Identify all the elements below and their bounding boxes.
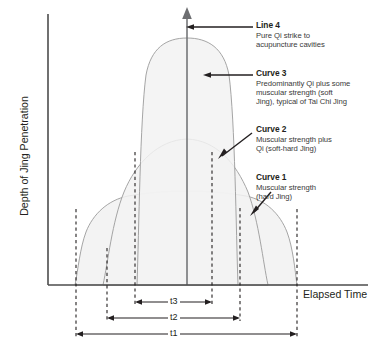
truncated-top-text (48, 0, 268, 4)
x-axis-title: Elapsed Time (303, 288, 367, 300)
annotation-line-4-desc-0: Pure Qi strike to (256, 31, 325, 40)
line-4-leader (186, 24, 253, 29)
annotation-curve-2-title: Curve 2 (256, 124, 332, 135)
annotation-curve-3-title: Curve 3 (256, 68, 350, 79)
annotation-curve-1-desc-0: Muscular strength (256, 183, 316, 192)
annotation-curve-3-desc-1: muscular strength (soft (256, 88, 350, 97)
y-axis-title: Depth of Jing Penetration (18, 76, 30, 236)
t1-measure-arrow (76, 331, 297, 336)
annotation-line-4-desc-1: acupuncture cavities (256, 40, 325, 49)
annotation-curve-1: Curve 1 Muscular strength (hard Jing) (256, 172, 316, 201)
annotation-curve-3-desc-0: Predominantly Qi plus some (256, 79, 350, 88)
t3-label: t3 (168, 296, 180, 306)
annotation-curve-3: Curve 3 Predominantly Qi plus some muscu… (256, 68, 350, 106)
annotation-curve-1-title: Curve 1 (256, 172, 316, 183)
annotation-curve-1-desc-1: (hard Jing) (256, 192, 316, 201)
t1-label: t1 (168, 328, 180, 338)
annotation-curve-2-desc: Muscular strength plus Qi (soft-hard Jin… (256, 135, 332, 153)
annotation-curve-2-desc-1: Qi (soft-hard Jing) (256, 144, 332, 153)
annotation-line-4: Line 4 Pure Qi strike to acupuncture cav… (256, 20, 325, 49)
annotation-curve-3-desc: Predominantly Qi plus some muscular stre… (256, 79, 350, 107)
annotation-curve-2-desc-0: Muscular strength plus (256, 135, 332, 144)
annotation-line-4-desc: Pure Qi strike to acupuncture cavities (256, 31, 325, 49)
annotation-curve-2: Curve 2 Muscular strength plus Qi (soft-… (256, 124, 332, 153)
annotation-curve-3-desc-2: Jing), typical of Tai Chi Jing (256, 97, 350, 106)
annotation-curve-1-desc: Muscular strength (hard Jing) (256, 183, 316, 201)
t2-label: t2 (168, 312, 180, 322)
annotation-line-4-title: Line 4 (256, 20, 325, 31)
